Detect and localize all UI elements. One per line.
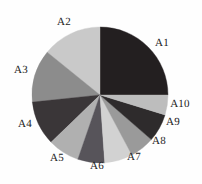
pie-label-a5: A5 (50, 153, 64, 164)
pie-slice-group (32, 27, 168, 163)
pie-label-a3: A3 (14, 65, 28, 76)
pie-label-a9: A9 (166, 117, 180, 128)
pie-chart-canvas (0, 0, 202, 184)
pie-label-a2: A2 (57, 17, 71, 28)
pie-label-a6: A6 (90, 161, 104, 172)
pie-label-a4: A4 (18, 119, 32, 130)
pie-label-a10: A10 (170, 99, 190, 110)
pie-label-a8: A8 (152, 136, 166, 147)
pie-chart-figure: A1A2A3A4A5A6A7A8A9A10 (0, 0, 202, 184)
pie-label-a7: A7 (127, 152, 141, 163)
pie-label-a1: A1 (155, 38, 169, 49)
